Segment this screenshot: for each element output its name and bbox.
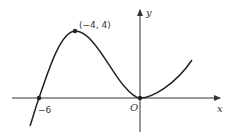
origin-point: [138, 96, 142, 100]
x-axis-label: x: [217, 103, 223, 114]
root-label: −6: [38, 105, 52, 115]
graph: (−4, 4) −6 O x y: [0, 0, 231, 137]
function-curve: [30, 31, 192, 126]
peak-point: [73, 29, 77, 33]
origin-label: O: [130, 102, 138, 113]
root-point: [37, 96, 41, 100]
y-axis-label: y: [145, 7, 152, 18]
peak-label: (−4, 4): [79, 20, 111, 30]
